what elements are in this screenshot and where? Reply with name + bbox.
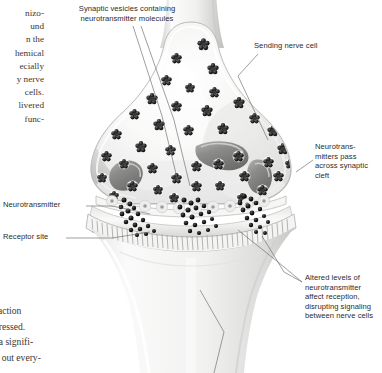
figure-page: Synaptic vesicles containing neurotransm… [0, 0, 382, 373]
label-neurotransmitter: Neurotransmitter [3, 200, 60, 210]
leader-vesicles-b [141, 26, 190, 186]
label-altered-levels: Altered levels of neurotransmitter affec… [305, 273, 382, 321]
body-text-column-top: nizo-undn thehemicaleciallyy nervecells.… [0, 7, 44, 126]
leader-neurotransmitter [86, 206, 150, 214]
body-text-line: their responses. [0, 288, 138, 303]
body-text-line: livered [0, 99, 44, 112]
body-text-line: hemical [0, 47, 44, 60]
leader-receptor [66, 232, 150, 238]
body-text-line: n the [0, 33, 44, 46]
body-text-line: ability to carry out every- [0, 350, 138, 365]
body-text-line: w from all interaction [0, 303, 138, 318]
label-synaptic-vesicles: Synaptic vesicles containing neurotransm… [67, 4, 187, 23]
body-text-line: y nerve [0, 73, 44, 86]
label-sending-nerve-cell: Sending nerve cell [254, 41, 317, 51]
leader-receiving-cell [200, 290, 224, 373]
body-text-line: ecially [0, 60, 44, 73]
leader-altered-b [262, 236, 302, 282]
body-text-line: cells. [0, 86, 44, 99]
leader-sending [238, 54, 268, 140]
body-text-line: nizo- [0, 7, 44, 20]
body-text-line: ome deeply depressed. [0, 319, 138, 334]
label-receptor-site: Receptor site [3, 232, 48, 242]
body-text-column-bottom: their responses.w from all interactionom… [0, 288, 138, 365]
body-text-line: und [0, 20, 44, 33]
leader-altered-a [238, 230, 302, 282]
leader-pass [296, 160, 313, 172]
label-neurotransmitters-pass: Neurotrans- mitters pass across synaptic… [315, 142, 381, 180]
body-text-line: func- [0, 113, 44, 126]
body-text-line: zophrenia have a signifi- [0, 334, 138, 349]
leader-vesicles-a [133, 26, 178, 182]
